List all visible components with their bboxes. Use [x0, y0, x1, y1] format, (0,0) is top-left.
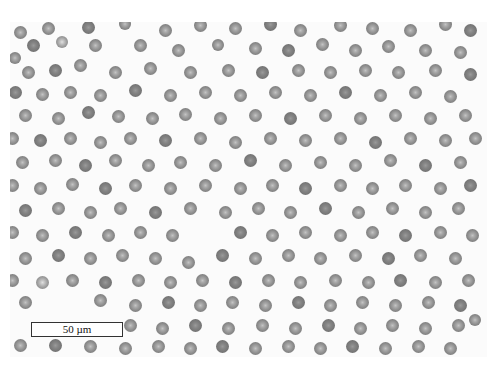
red-blood-cell	[209, 159, 222, 172]
red-blood-cell	[194, 22, 207, 32]
red-blood-cell	[22, 66, 35, 79]
red-blood-cell	[94, 294, 107, 307]
red-blood-cell	[256, 319, 269, 332]
red-blood-cell	[299, 134, 312, 147]
red-blood-cell	[389, 299, 402, 312]
red-blood-cell	[189, 319, 202, 332]
red-blood-cell	[66, 274, 79, 287]
red-blood-cell	[379, 342, 392, 355]
red-blood-cell	[252, 202, 265, 215]
red-blood-cell	[314, 342, 327, 355]
red-blood-cell	[99, 182, 112, 195]
red-blood-cell	[52, 202, 65, 215]
red-blood-cell	[294, 276, 307, 289]
red-blood-cell	[182, 256, 195, 269]
red-blood-cell	[249, 109, 262, 122]
red-blood-cell	[359, 64, 372, 77]
red-blood-cell	[144, 62, 157, 75]
red-blood-cell	[282, 249, 295, 262]
red-blood-cell	[114, 202, 127, 215]
red-blood-cell	[156, 322, 169, 335]
red-blood-cell	[292, 64, 305, 77]
red-blood-cell	[129, 299, 142, 312]
red-blood-cell	[264, 132, 277, 145]
red-blood-cell	[199, 86, 212, 99]
red-blood-cell	[354, 112, 367, 125]
red-blood-cell	[469, 132, 482, 145]
red-blood-cell	[249, 252, 262, 265]
red-blood-cell	[389, 109, 402, 122]
red-blood-cell	[429, 64, 442, 77]
red-blood-cell	[284, 112, 297, 125]
red-blood-cell	[262, 274, 275, 287]
red-blood-cell	[289, 322, 302, 335]
red-blood-cell	[464, 68, 477, 81]
red-blood-cell	[42, 22, 55, 35]
red-blood-cell	[339, 86, 352, 99]
red-blood-cell	[194, 299, 207, 312]
red-blood-cell	[299, 226, 312, 239]
red-blood-cell	[329, 274, 342, 287]
red-blood-cell	[16, 156, 29, 169]
red-blood-cell	[444, 342, 457, 355]
red-blood-cell	[319, 109, 332, 122]
red-blood-cell	[124, 132, 137, 145]
red-blood-cell	[412, 340, 425, 353]
red-blood-cell	[374, 89, 387, 102]
red-blood-cell	[322, 319, 335, 332]
scale-bar: 50 µm	[31, 322, 123, 337]
red-blood-cell	[149, 206, 162, 219]
red-blood-cell	[36, 88, 49, 101]
red-blood-cell	[79, 159, 92, 172]
red-blood-cell	[284, 206, 297, 219]
red-blood-cell	[84, 252, 97, 265]
red-blood-cell	[464, 179, 477, 192]
red-blood-cell	[164, 89, 177, 102]
red-blood-cell	[299, 182, 312, 195]
red-blood-cell	[404, 132, 417, 145]
red-blood-cell	[282, 44, 295, 57]
red-blood-cell	[19, 109, 32, 122]
red-blood-cell	[462, 274, 475, 287]
red-blood-cell	[256, 66, 269, 79]
red-blood-cell	[409, 86, 422, 99]
red-blood-cell	[219, 206, 232, 219]
red-blood-cell	[84, 340, 97, 353]
red-blood-cell	[159, 134, 172, 147]
red-blood-cell	[244, 154, 257, 167]
red-blood-cell	[99, 276, 112, 289]
red-blood-cell	[249, 42, 262, 55]
red-blood-cell	[234, 226, 247, 239]
red-blood-cell	[222, 322, 235, 335]
red-blood-cell	[234, 182, 247, 195]
red-blood-cell	[94, 136, 107, 149]
red-blood-cell	[109, 154, 122, 167]
red-blood-cell	[382, 252, 395, 265]
red-blood-cell	[226, 296, 239, 309]
red-blood-cell	[419, 322, 432, 335]
red-blood-cell	[119, 342, 132, 355]
red-blood-cell	[324, 66, 337, 79]
red-blood-cell	[349, 249, 362, 262]
red-blood-cell	[84, 206, 97, 219]
red-blood-cell	[10, 226, 19, 239]
scale-bar-label: 50 µm	[63, 323, 92, 336]
red-blood-cell	[36, 229, 49, 242]
red-blood-cell	[424, 112, 437, 125]
red-blood-cell	[269, 86, 282, 99]
red-blood-cell	[14, 26, 27, 39]
red-blood-cell	[294, 24, 307, 37]
red-blood-cell	[14, 339, 27, 352]
red-blood-cell	[439, 134, 452, 147]
red-blood-cell	[149, 252, 162, 265]
red-blood-cell	[229, 136, 242, 149]
red-blood-cell	[429, 276, 442, 289]
red-blood-cell	[279, 159, 292, 172]
red-blood-cell	[266, 179, 279, 192]
blood-smear-micrograph	[10, 22, 487, 357]
red-blood-cell	[194, 132, 207, 145]
red-blood-cell	[334, 132, 347, 145]
red-blood-cell	[64, 132, 77, 145]
red-blood-cell	[439, 22, 452, 31]
red-blood-cell	[444, 90, 457, 103]
